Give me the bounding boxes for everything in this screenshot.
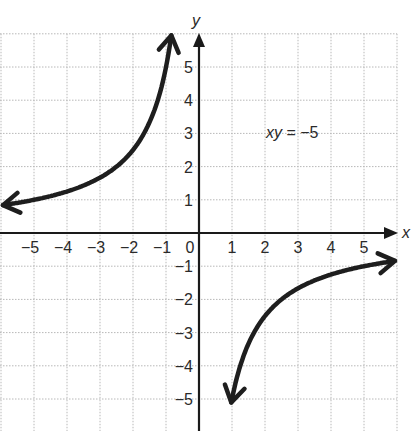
curve-branch-quadrant-ii — [3, 35, 171, 205]
x-tick-label: 2 — [261, 239, 270, 256]
x-tick-label: −2 — [120, 239, 138, 256]
y-axis-arrow-icon — [193, 33, 205, 47]
x-axis-label: x — [401, 224, 411, 241]
y-axis-label: y — [191, 12, 201, 29]
x-tick-labels: −5−4−3−2−1012345 — [21, 239, 369, 256]
y-tick-label: 5 — [184, 59, 193, 76]
x-tick-label: 1 — [228, 239, 237, 256]
x-tick-label: −1 — [153, 239, 171, 256]
y-tick-label: −2 — [175, 291, 193, 308]
y-tick-label: −4 — [175, 358, 193, 375]
equation-rest: = −5 — [282, 124, 319, 141]
x-tick-label: −3 — [87, 239, 105, 256]
y-tick-label: −5 — [175, 391, 193, 408]
hyperbola-chart: x y −5−4−3−2−1012345 54321−1−2−3−4−5 xy … — [0, 0, 414, 431]
y-tick-label: 3 — [184, 125, 193, 142]
y-tick-label: −3 — [175, 325, 193, 342]
x-tick-label: 5 — [360, 239, 369, 256]
x-tick-label: −4 — [54, 239, 72, 256]
x-tick-label: 3 — [294, 239, 303, 256]
x-tick-label: 4 — [327, 239, 336, 256]
y-tick-label: −1 — [175, 258, 193, 275]
x-tick-label: −5 — [21, 239, 39, 256]
y-tick-label: 4 — [184, 92, 193, 109]
x-tick-label: 0 — [186, 239, 195, 256]
equation-label: xy = −5 — [265, 124, 319, 141]
curve-branch-quadrant-iv — [231, 261, 395, 403]
y-tick-label: 1 — [184, 192, 193, 209]
equation-vars: xy — [265, 124, 283, 141]
y-tick-label: 2 — [184, 159, 193, 176]
x-axis-arrow-icon — [384, 227, 398, 239]
